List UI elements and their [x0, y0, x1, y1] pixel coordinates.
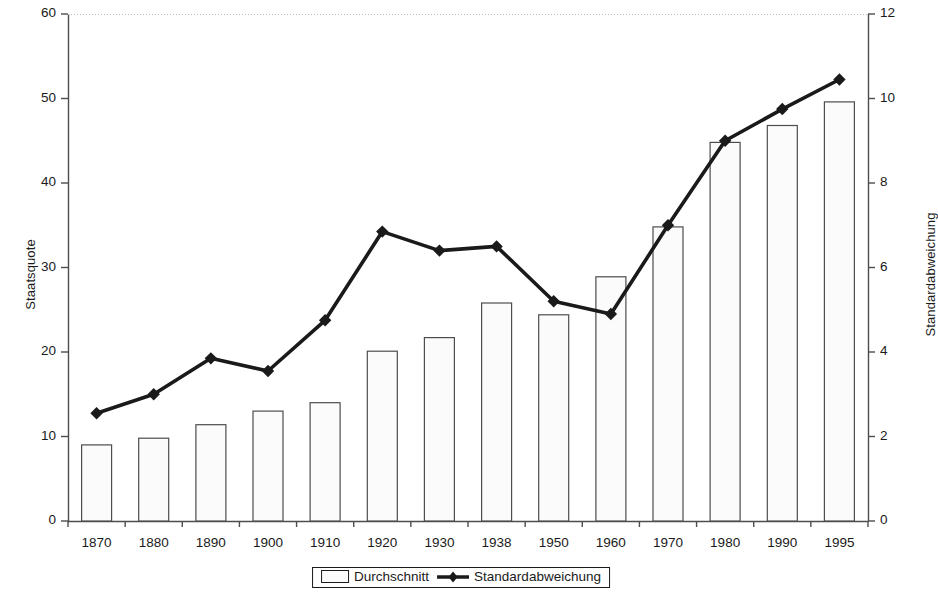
line-marker [833, 73, 845, 85]
x-axis-tick-label: 1890 [181, 535, 241, 550]
y-axis-left-tick-label: 10 [10, 428, 56, 443]
y-axis-right-tick-label: 2 [880, 428, 926, 443]
bar [710, 142, 740, 521]
chart-legend: Durchschnitt Standardabweichung [312, 567, 610, 588]
bar [767, 126, 797, 522]
bar [824, 102, 854, 521]
legend-item-standardabweichung[interactable]: Standardabweichung [437, 570, 601, 584]
x-axis-tick-label: 1990 [752, 535, 812, 550]
bar [539, 315, 569, 521]
x-axis-tick-label: 1920 [352, 535, 412, 550]
x-axis-tick-label: 1870 [67, 535, 127, 550]
line-marker [90, 407, 102, 419]
y-axis-left-tick-label: 50 [10, 90, 56, 105]
y-axis-left-tick-label: 40 [10, 174, 56, 189]
x-axis-tick-label: 1970 [638, 535, 698, 550]
bar [482, 303, 512, 521]
x-axis-tick-label: 1930 [409, 535, 469, 550]
bar [82, 445, 112, 521]
plot-svg [68, 14, 868, 521]
y-axis-right-tick-label: 0 [880, 512, 926, 527]
bar [367, 351, 397, 521]
legend-label-durchschnitt: Durchschnitt [354, 570, 429, 584]
y-axis-right-tick-label: 4 [880, 343, 926, 358]
y-axis-left-tick-label: 20 [10, 343, 56, 358]
x-axis-tick-label: 1995 [809, 535, 869, 550]
legend-label-standardabweichung: Standardabweichung [474, 570, 601, 584]
y-axis-right-tick-label: 10 [880, 90, 926, 105]
y-axis-right-tick-label: 8 [880, 174, 926, 189]
y-axis-right-tick-label: 12 [880, 5, 926, 20]
x-axis-tick-label: 1960 [581, 535, 641, 550]
bar [196, 425, 226, 521]
bar [424, 338, 454, 521]
y-axis-right-tick-label: 6 [880, 259, 926, 274]
y-axis-left-tick-label: 30 [10, 259, 56, 274]
x-axis-tick-label: 1910 [295, 535, 355, 550]
legend-item-durchschnitt[interactable]: Durchschnitt [321, 570, 429, 584]
y-axis-left-tick-label: 0 [10, 512, 56, 527]
bar [139, 438, 169, 521]
y-axis-right-title: Standardabweichung [923, 185, 938, 365]
x-axis-tick-label: 1938 [467, 535, 527, 550]
bar [653, 227, 683, 521]
line-diamond-icon [437, 571, 469, 583]
bar-swatch-icon [321, 570, 349, 583]
x-axis-tick-label: 1980 [695, 535, 755, 550]
y-axis-left-title: Staatsquote [23, 215, 38, 335]
plot-area [68, 14, 868, 521]
bar [253, 411, 283, 521]
x-axis-tick-label: 1950 [524, 535, 584, 550]
x-axis-tick-label: 1900 [238, 535, 298, 550]
x-axis-tick-label: 1880 [124, 535, 184, 550]
bar [310, 403, 340, 521]
y-axis-left-tick-label: 60 [10, 5, 56, 20]
line-marker [433, 244, 445, 256]
